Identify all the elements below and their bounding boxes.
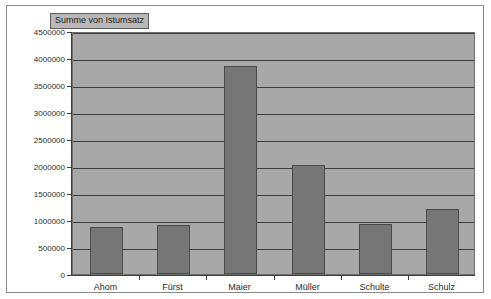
x-axis-category-label: Fürst [139, 282, 206, 293]
y-axis-tick [67, 275, 72, 276]
y-axis-tick [67, 32, 72, 33]
y-axis-tick [67, 167, 72, 168]
gridline [73, 33, 474, 34]
bar[interactable] [90, 227, 123, 274]
x-axis-tick [341, 275, 342, 280]
y-axis-tick [67, 140, 72, 141]
bar[interactable] [426, 209, 459, 274]
y-axis-tick-label: 0 [7, 271, 65, 280]
y-axis-tick-label: 2000000 [7, 163, 65, 172]
gridline [73, 114, 474, 115]
gridline [73, 249, 474, 250]
y-axis-tick-label: 1000000 [7, 217, 65, 226]
x-axis-category-label: Schulte [341, 282, 408, 293]
plot-area [72, 32, 475, 275]
y-axis-tick-label: 500000 [7, 244, 65, 253]
y-axis-tick-label: 2500000 [7, 136, 65, 145]
x-axis-tick [206, 275, 207, 280]
legend-title-box: Summe von Istumsatz [50, 13, 149, 29]
gridline [73, 168, 474, 169]
chart-frame: 4500000400000035000003000000250000020000… [6, 5, 484, 293]
bar[interactable] [359, 224, 392, 274]
y-axis-tick [67, 221, 72, 222]
x-axis-category-label: Schulz [408, 282, 475, 293]
bar[interactable] [224, 66, 257, 274]
x-axis-tick [408, 275, 409, 280]
bar[interactable] [292, 165, 325, 274]
y-axis-tick-label: 3000000 [7, 109, 65, 118]
x-axis-category-label: Müller [274, 282, 341, 293]
bar[interactable] [157, 225, 190, 274]
y-axis-tick [67, 86, 72, 87]
y-axis-tick-label: 1500000 [7, 190, 65, 199]
gridline [73, 60, 474, 61]
y-axis-tick-label: 4500000 [7, 28, 65, 37]
x-axis-category-label: Maier [206, 282, 273, 293]
gridline [73, 195, 474, 196]
x-axis-tick [139, 275, 140, 280]
gridline [73, 222, 474, 223]
y-axis-tick [67, 248, 72, 249]
y-axis-tick [67, 194, 72, 195]
legend-label: Summe von Istumsatz [55, 15, 144, 25]
x-axis-tick [274, 275, 275, 280]
y-axis-tick-label: 4000000 [7, 55, 65, 64]
x-axis-category-label: Ahom [72, 282, 139, 293]
gridline [73, 87, 474, 88]
y-axis-labels: 4500000400000035000003000000250000020000… [7, 6, 65, 294]
gridline [73, 141, 474, 142]
x-axis-line [71, 275, 475, 276]
y-axis-tick [67, 113, 72, 114]
y-axis-tick-label: 3500000 [7, 82, 65, 91]
y-axis-tick [67, 59, 72, 60]
